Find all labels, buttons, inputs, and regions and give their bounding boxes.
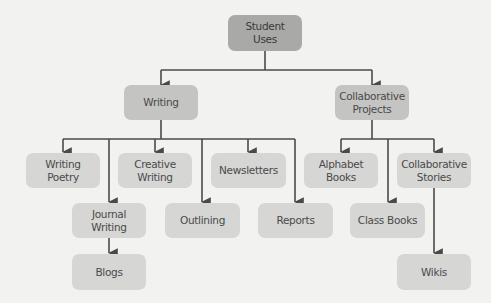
node-collaborative-projects-line2: Projects bbox=[339, 103, 405, 116]
node-collaborative-projects-line1: Collaborative bbox=[339, 90, 405, 103]
node-collaborative-projects: Collaborative Projects bbox=[335, 85, 409, 120]
node-blogs-label: Blogs bbox=[95, 266, 122, 279]
node-collaborative-stories: Collaborative Stories bbox=[397, 153, 471, 188]
node-writing: Writing bbox=[124, 85, 198, 120]
node-alphabet-books-line1: Alphabet bbox=[319, 158, 364, 171]
node-writing-poetry: Writing Poetry bbox=[26, 153, 100, 188]
node-outlining-label: Outlining bbox=[180, 214, 225, 227]
node-newsletters: Newsletters bbox=[211, 153, 286, 188]
node-wikis-label: Wikis bbox=[421, 266, 447, 279]
node-alphabet-books-line2: Books bbox=[319, 171, 364, 184]
node-journal-writing-line1: Journal bbox=[91, 208, 126, 221]
node-journal-writing: Journal Writing bbox=[72, 203, 146, 238]
node-journal-writing-line2: Writing bbox=[91, 221, 126, 234]
node-writing-poetry-line1: Writing bbox=[45, 158, 80, 171]
node-student-uses: Student Uses bbox=[228, 15, 302, 51]
node-outlining: Outlining bbox=[165, 203, 240, 238]
node-class-books-label: Class Books bbox=[358, 214, 417, 227]
node-student-uses-line2: Uses bbox=[245, 33, 284, 46]
node-writing-label: Writing bbox=[143, 96, 178, 109]
node-alphabet-books: Alphabet Books bbox=[304, 153, 378, 188]
node-writing-poetry-line2: Poetry bbox=[45, 171, 80, 184]
node-reports: Reports bbox=[258, 203, 333, 238]
node-collaborative-stories-line1: Collaborative bbox=[401, 158, 467, 171]
node-wikis: Wikis bbox=[397, 254, 471, 290]
node-class-books: Class Books bbox=[350, 203, 425, 238]
node-reports-label: Reports bbox=[276, 214, 314, 227]
node-creative-writing-line2: Writing bbox=[134, 171, 176, 184]
node-creative-writing-line1: Creative bbox=[134, 158, 176, 171]
node-newsletters-label: Newsletters bbox=[219, 164, 278, 177]
node-blogs: Blogs bbox=[72, 254, 146, 290]
node-student-uses-line1: Student bbox=[245, 20, 284, 33]
node-collaborative-stories-line2: Stories bbox=[401, 171, 467, 184]
node-creative-writing: Creative Writing bbox=[118, 153, 192, 188]
